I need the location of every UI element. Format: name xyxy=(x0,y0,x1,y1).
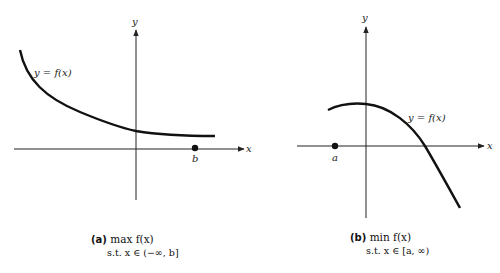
x-axis-label-b: x xyxy=(487,140,493,151)
x-axis-label-a: x xyxy=(246,143,252,154)
y-axis-label-a: y xyxy=(131,16,138,27)
caption-objective-a: max f(x) xyxy=(110,233,153,245)
panel-b: x y y = f(x) a xyxy=(297,12,493,218)
caption-constraint-a: s.t. x ∈ (−∞, b] xyxy=(91,246,179,259)
point-label-b: b xyxy=(192,153,198,164)
caption-tag-a: (a) xyxy=(91,234,107,245)
caption-objective-b: min f(x) xyxy=(370,231,411,243)
caption-b: (b) min f(x) s.t. x ∈ [a, ∞) xyxy=(350,231,429,257)
caption-tag-b: (b) xyxy=(350,232,366,243)
panel-a: x y y = f(x) b xyxy=(14,16,252,200)
y-axis-label-b: y xyxy=(361,12,368,23)
point-b xyxy=(192,145,198,151)
curve-a xyxy=(20,50,215,136)
point-a xyxy=(332,143,338,149)
caption-a: (a) max f(x) s.t. x ∈ (−∞, b] xyxy=(91,233,179,259)
caption-constraint-b: s.t. x ∈ [a, ∞) xyxy=(350,244,429,257)
curve-label-b: y = f(x) xyxy=(407,112,446,123)
point-label-a: a xyxy=(332,152,338,163)
curve-label-a: y = f(x) xyxy=(33,67,72,78)
